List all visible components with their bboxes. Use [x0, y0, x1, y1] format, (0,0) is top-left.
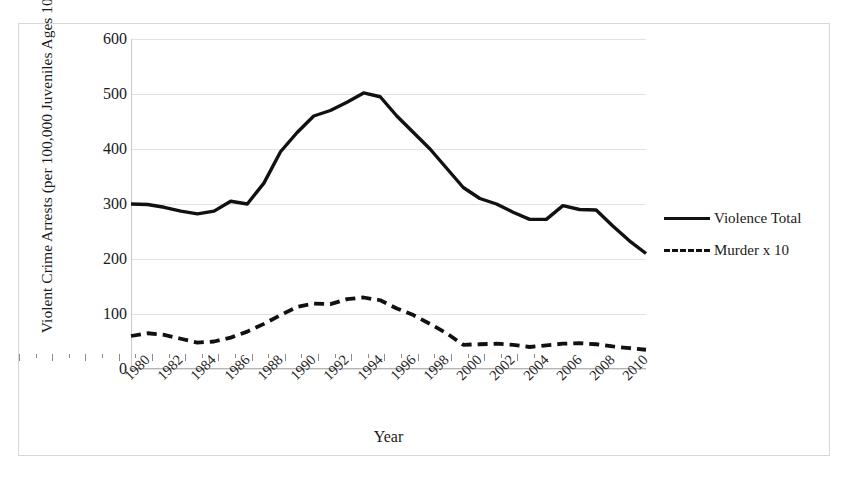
legend-label: Violence Total — [714, 210, 801, 227]
legend-item-violence-total: Violence Total — [664, 202, 824, 234]
x-tick-mark — [484, 354, 485, 361]
y-tick-label: 100 — [81, 305, 127, 323]
series-layer — [131, 39, 646, 369]
x-axis-tick-labels: 1980198219841986198819901992199419961998… — [131, 372, 646, 432]
chart-legend: Violence Total Murder x 10 — [664, 202, 824, 266]
x-tick-mark — [19, 354, 20, 361]
x-tick-mark — [218, 354, 219, 361]
x-tick-mark — [318, 354, 319, 361]
x-tick-mark — [152, 354, 153, 361]
y-tick-label: 400 — [81, 140, 127, 158]
x-tick-mark — [517, 354, 518, 361]
series-line — [131, 93, 646, 254]
x-tick-mark — [451, 354, 452, 361]
y-axis-title: Violent Crime Arrests (per 100,000 Juven… — [37, 0, 56, 347]
chart-figure: Violent Crime Arrests (per 100,000 Juven… — [18, 23, 830, 456]
y-tick-label: 0 — [81, 360, 127, 378]
x-tick-mark — [102, 354, 103, 358]
x-tick-mark — [69, 354, 70, 358]
x-tick-mark — [36, 354, 37, 358]
legend-swatch-solid-line — [664, 217, 710, 220]
x-tick-mark — [285, 354, 286, 361]
x-tick-mark — [418, 354, 419, 361]
x-axis-title: Year — [131, 428, 646, 446]
x-tick-mark — [351, 354, 352, 361]
y-tick-label: 200 — [81, 250, 127, 268]
x-tick-mark — [52, 354, 53, 361]
y-tick-label: 600 — [81, 30, 127, 48]
legend-swatch-dashed-line — [664, 249, 710, 252]
x-tick-mark — [252, 354, 253, 361]
y-axis-tick-labels: 0100200300400500600 — [57, 24, 127, 457]
legend-label: Murder x 10 — [714, 242, 789, 259]
legend-item-murder-x10: Murder x 10 — [664, 234, 824, 266]
plot-area — [131, 39, 646, 369]
y-tick-label: 500 — [81, 85, 127, 103]
x-tick-mark — [384, 354, 385, 361]
series-line — [131, 298, 646, 350]
x-tick-mark — [119, 354, 120, 361]
x-tick-mark — [185, 354, 186, 361]
y-tick-label: 300 — [81, 195, 127, 213]
x-tick-mark — [85, 354, 86, 361]
